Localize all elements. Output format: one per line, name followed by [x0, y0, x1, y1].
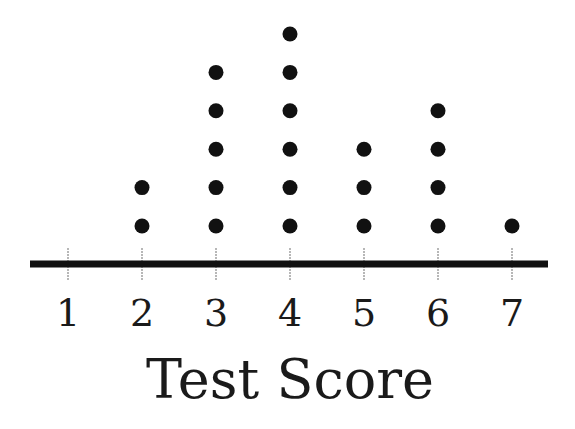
data-dot	[283, 142, 298, 157]
data-dot	[283, 180, 298, 195]
x-axis-title: Test Score	[146, 348, 434, 411]
data-dot	[209, 65, 224, 80]
data-dot	[505, 219, 520, 234]
tick-label: 1	[56, 291, 80, 335]
data-dot	[283, 27, 298, 42]
data-dot	[209, 142, 224, 157]
tick-label: 7	[500, 291, 524, 335]
data-dot	[209, 103, 224, 118]
data-dot	[431, 103, 446, 118]
data-dot	[283, 103, 298, 118]
tick-label: 3	[204, 291, 228, 335]
data-dot	[431, 142, 446, 157]
tick-label: 2	[130, 291, 154, 335]
data-dot	[357, 142, 372, 157]
tick-label: 4	[278, 291, 302, 335]
data-dot	[431, 219, 446, 234]
data-dot	[209, 180, 224, 195]
data-dot	[209, 219, 224, 234]
dot-plot-chart: 1234567 Test Score	[0, 0, 575, 429]
data-dot	[357, 180, 372, 195]
data-dot	[357, 219, 372, 234]
dots-layer	[135, 27, 520, 234]
data-dot	[283, 219, 298, 234]
tick-label: 6	[426, 291, 450, 335]
data-dot	[431, 180, 446, 195]
tick-labels: 1234567	[56, 291, 524, 335]
data-dot	[135, 219, 150, 234]
tick-label: 5	[352, 291, 376, 335]
data-dot	[283, 65, 298, 80]
data-dot	[135, 180, 150, 195]
